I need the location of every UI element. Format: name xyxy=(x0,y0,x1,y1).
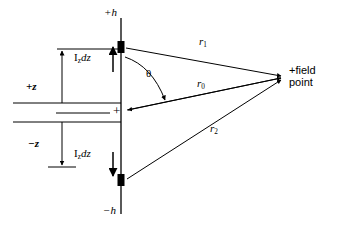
r0-subscript: 0 xyxy=(201,83,205,91)
label-minus-z: −z xyxy=(28,138,39,150)
current-element-bottom-marker xyxy=(118,174,125,186)
r2-subscript: 2 xyxy=(214,128,218,136)
label-plus-z: +z xyxy=(26,81,37,93)
r1-subscript: 1 xyxy=(203,41,207,49)
label-r1: r1 xyxy=(199,36,207,49)
label-r2: r2 xyxy=(210,123,218,136)
theta-angle-arc xyxy=(125,57,165,100)
current-element-top-marker xyxy=(118,41,125,53)
izdz-top-differential: dz xyxy=(81,51,91,63)
field-point-line-1: +field xyxy=(289,65,316,77)
izdz-bottom-differential: dz xyxy=(81,147,91,159)
label-minus-h: −h xyxy=(103,205,116,217)
label-current-element-bottom: Izdz xyxy=(74,148,91,161)
field-point-line-2: point xyxy=(289,77,316,89)
antenna-geometry-diagram: +h −h +z −z Izdz Izdz θ r1 r0 r2 + +fiel… xyxy=(0,0,337,232)
label-r0: r0 xyxy=(197,78,205,91)
label-plus-h: +h xyxy=(104,7,117,19)
label-theta: θ xyxy=(146,68,151,80)
label-field-point: +field point xyxy=(289,65,316,88)
label-origin-plus-marker: + xyxy=(113,104,120,118)
label-current-element-top: Izdz xyxy=(74,52,91,65)
diagram-canvas xyxy=(0,0,337,232)
ray-r2 xyxy=(127,80,281,179)
